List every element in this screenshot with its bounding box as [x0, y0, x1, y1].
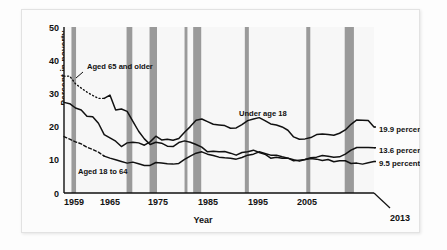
y-tick-50: 50: [49, 23, 59, 33]
recession-band: [193, 27, 201, 193]
annotation-aged-18-64: Aged 18 to 64: [78, 167, 128, 176]
recession-band: [185, 27, 188, 193]
x-axis-tail: [374, 193, 390, 208]
y-tick-30: 30: [49, 89, 59, 99]
recession-band: [345, 27, 354, 193]
x-tick-1985: 1985: [198, 197, 218, 207]
poverty-line-chart: 50 40 30 20 10 0 Aged 65 and older Aged …: [21, 9, 420, 233]
end-label-aged-65: 9.5 percent: [379, 159, 420, 168]
figure-root: Percent in poverty 50 40 30 20 10 0: [0, 0, 447, 250]
x-tick-2013: 2013: [390, 213, 410, 223]
y-tick-labels-group: 50 40 30 20 10 0: [49, 23, 59, 199]
y-tick-10: 10: [49, 155, 59, 165]
plot-wrapper: Percent in poverty 50 40 30 20 10 0: [21, 9, 420, 233]
annotation-aged-65: Aged 65 and older: [87, 62, 153, 71]
recession-band: [150, 27, 157, 193]
recession-band: [306, 27, 310, 193]
y-tick-20: 20: [49, 122, 59, 132]
recession-band: [127, 27, 133, 193]
x-tick-1965: 1965: [100, 197, 120, 207]
end-label-aged-18-64: 13.6 percent: [379, 146, 420, 155]
y-tick-40: 40: [49, 56, 59, 66]
x-tick-1995: 1995: [248, 197, 268, 207]
x-axis-label: Year: [193, 215, 213, 225]
x-tick-labels-group: 1959 1965 1975 1985 1995 2005 2013: [64, 197, 410, 223]
y-tick-0: 0: [54, 189, 59, 199]
x-tick-2005: 2005: [297, 197, 317, 207]
end-label-under-18: 19.9 percent: [379, 125, 420, 134]
annotation-under-18: Under age 18: [239, 109, 287, 118]
recession-band: [71, 27, 76, 193]
x-tick-1975: 1975: [148, 197, 168, 207]
x-tick-1959: 1959: [64, 197, 84, 207]
